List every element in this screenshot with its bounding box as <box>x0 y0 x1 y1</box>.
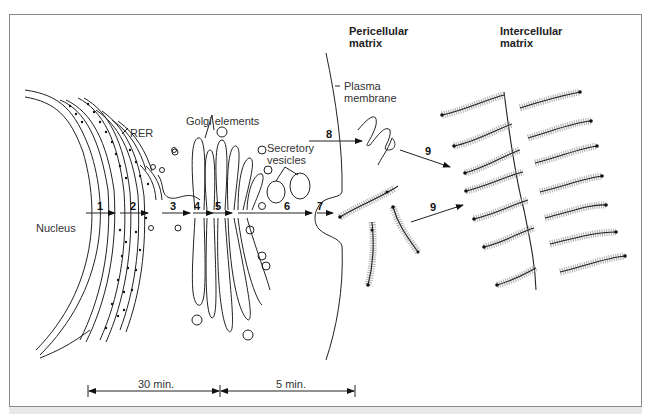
step-8: 8 <box>326 128 332 140</box>
secretory-label-line2: vesicles <box>267 154 307 166</box>
step-4: 4 <box>194 200 201 212</box>
timeline-scale <box>88 385 355 397</box>
pericellular-fibrils <box>338 186 419 287</box>
golgi-label: Golgi elements <box>186 115 260 127</box>
secretory-label-line1: Secretory <box>267 142 315 154</box>
step-9b: 9 <box>430 201 436 213</box>
rer-label: RER <box>130 127 153 139</box>
pericellular-label-line2: matrix <box>349 37 383 49</box>
step-5: 5 <box>215 200 221 212</box>
step-7: 7 <box>317 200 323 212</box>
nucleus-label: Nucleus <box>36 222 76 234</box>
timeline-30-min: 30 min. <box>138 378 174 390</box>
intercellular-label-line1: Intercellular <box>500 25 563 37</box>
step-6: 6 <box>284 200 290 212</box>
intercellular-fibril-network <box>440 90 627 290</box>
secretion-pathway-diagram: RER Nucleus Golgi elements Secre <box>0 0 652 414</box>
intercellular-label-line2: matrix <box>500 37 534 49</box>
golgi-apparatus <box>172 127 272 340</box>
timeline-5-min: 5 min. <box>276 378 306 390</box>
step-3: 3 <box>170 200 176 212</box>
step-2: 2 <box>130 200 136 212</box>
plasma-label-line2: membrane <box>344 92 397 104</box>
step-9a: 9 <box>425 145 431 157</box>
plasma-label-line1: Plasma <box>344 80 382 92</box>
procollagen-coil <box>358 117 395 165</box>
step-1: 1 <box>97 200 103 212</box>
pericellular-label-line1: Pericellular <box>349 25 409 37</box>
